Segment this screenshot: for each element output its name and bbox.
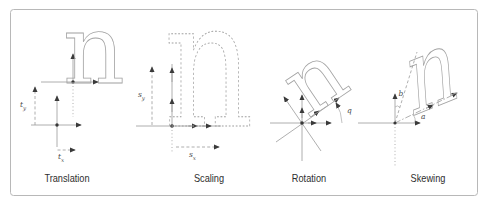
caption-skewing: Skewing xyxy=(411,172,446,184)
b-angle-arc xyxy=(395,106,400,108)
origin-dot xyxy=(300,121,304,125)
caption-translation: Translation xyxy=(44,172,89,184)
label-sy: sy xyxy=(138,90,146,102)
label-b: b xyxy=(399,89,404,98)
origin-dot xyxy=(55,123,58,126)
figure-transformations: ty tx n sy sx xyxy=(0,0,487,204)
panel-scaling: sy sx n xyxy=(136,0,254,168)
letter-n-translated: n xyxy=(63,0,125,106)
letter-n-rotated: n xyxy=(264,23,365,136)
label-tx: tx xyxy=(58,152,65,163)
panel-skewing: b a n xyxy=(358,0,461,167)
caption-rotation: Rotation xyxy=(292,172,326,184)
letter-n-skewed: n xyxy=(404,0,461,141)
panel-translation: ty tx n xyxy=(20,0,125,163)
panel-rotation: q n xyxy=(264,23,365,161)
letter-n-scaled: n xyxy=(164,0,254,168)
origin-dot xyxy=(393,121,396,124)
caption-scaling: Scaling xyxy=(194,172,224,184)
label-ty: ty xyxy=(20,100,27,112)
